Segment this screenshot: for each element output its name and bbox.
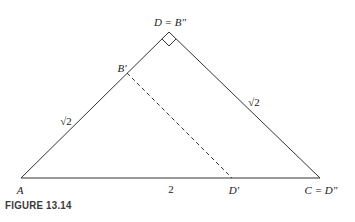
triangle-diagram — [0, 0, 355, 222]
label-left-side-length: √2 — [60, 116, 72, 127]
figure-canvas: D = B″ B′ √2 √2 2 A D′ C = D″ FIGURE 13.… — [0, 0, 355, 222]
label-apex: D = B″ — [154, 17, 186, 28]
label-base-length: 2 — [168, 184, 174, 195]
side-a-apex — [21, 32, 169, 178]
dashed-segment-bprime-dprime — [127, 73, 232, 178]
figure-caption: FIGURE 13.14 — [5, 199, 72, 211]
side-apex-c — [169, 32, 320, 178]
label-b-prime: B′ — [117, 63, 126, 74]
label-c: C = D″ — [305, 185, 338, 196]
label-d-prime: D′ — [229, 185, 239, 196]
right-angle-marker — [162, 39, 176, 46]
label-right-side-length: √2 — [248, 97, 260, 108]
label-a: A — [17, 185, 24, 196]
